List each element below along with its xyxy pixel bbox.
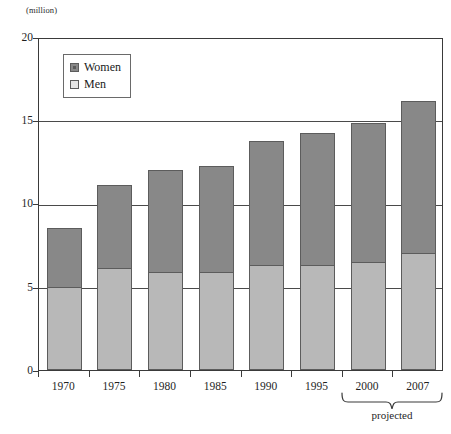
y-tick-label: 5 bbox=[7, 282, 33, 294]
bar-segment-women bbox=[199, 166, 234, 273]
x-tick-mark bbox=[342, 371, 343, 377]
legend-swatch-icon bbox=[70, 80, 79, 89]
bar-group bbox=[47, 227, 82, 370]
x-tick-label: 1970 bbox=[38, 380, 89, 392]
bar-segment-men bbox=[148, 272, 183, 370]
x-tick-label: 1985 bbox=[190, 380, 241, 392]
bar-segment-men bbox=[351, 262, 386, 370]
x-tick-label: 1990 bbox=[241, 380, 292, 392]
bar-group bbox=[351, 122, 386, 370]
legend: Women Men bbox=[63, 54, 131, 98]
bar-segment-men bbox=[249, 265, 284, 370]
y-tick-label: 10 bbox=[7, 198, 33, 210]
projected-brace-icon bbox=[340, 392, 444, 410]
bar-segment-men bbox=[47, 287, 82, 370]
bar-group bbox=[199, 165, 234, 370]
bar-group bbox=[401, 100, 436, 370]
y-tick-label: 15 bbox=[7, 115, 33, 127]
x-tick-mark bbox=[89, 371, 90, 377]
bar-segment-men bbox=[401, 253, 436, 370]
x-tick-mark bbox=[38, 371, 39, 377]
x-tick-mark bbox=[241, 371, 242, 377]
legend-item-men: Men bbox=[70, 76, 121, 93]
bar-segment-women bbox=[148, 170, 183, 273]
legend-label: Women bbox=[84, 61, 121, 74]
bar-segment-women bbox=[97, 185, 132, 270]
bar-segment-men bbox=[97, 268, 132, 370]
bar-group bbox=[249, 140, 284, 370]
bar-segment-women bbox=[300, 133, 335, 266]
bar-group bbox=[97, 184, 132, 370]
x-tick-label: 2000 bbox=[342, 380, 393, 392]
legend-swatch-icon bbox=[70, 63, 79, 72]
bar-group bbox=[148, 169, 183, 370]
x-tick-label: 2007 bbox=[392, 380, 443, 392]
y-tick-label: 0 bbox=[7, 365, 33, 377]
bar-group bbox=[300, 132, 335, 370]
y-axis-tick-labels: 20 15 10 5 0 bbox=[0, 0, 33, 434]
bar-segment-women bbox=[401, 101, 436, 254]
legend-item-women: Women bbox=[70, 59, 121, 76]
bar-segment-men bbox=[300, 265, 335, 370]
x-tick-label: 1995 bbox=[291, 380, 342, 392]
y-tick-label: 20 bbox=[7, 32, 33, 44]
bar-segment-women bbox=[249, 141, 284, 266]
x-tick-mark bbox=[139, 371, 140, 377]
x-tick-mark bbox=[291, 371, 292, 377]
x-tick-mark bbox=[190, 371, 191, 377]
bar-segment-men bbox=[199, 272, 234, 370]
x-tick-label: 1975 bbox=[89, 380, 140, 392]
stacked-bar-chart: (million) 20 15 10 5 0 19701975198019851… bbox=[0, 0, 451, 434]
x-tick-label: 1980 bbox=[139, 380, 190, 392]
legend-label: Men bbox=[84, 78, 106, 91]
bar-segment-women bbox=[351, 123, 386, 263]
x-tick-mark bbox=[392, 371, 393, 377]
projected-annotation-label: projected bbox=[340, 409, 444, 421]
bar-segment-women bbox=[47, 228, 82, 288]
